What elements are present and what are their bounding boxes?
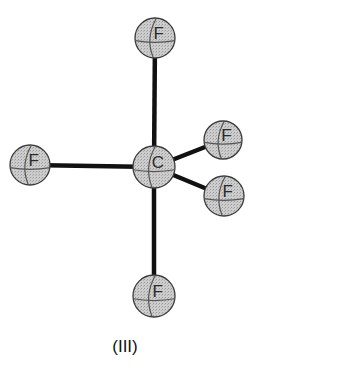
atom-F-left: F: [10, 145, 50, 185]
atom-label: F: [153, 282, 163, 301]
atom-F-lower-right: F: [204, 176, 244, 216]
atom-label: F: [221, 126, 231, 145]
atom-label: F: [28, 151, 38, 170]
figure-caption: (III): [112, 337, 138, 356]
atom-F-top: F: [135, 18, 175, 58]
molecule-diagram: FFCFFF (III): [0, 0, 345, 368]
bonds-group: [30, 38, 224, 296]
atom-label: F: [222, 182, 232, 201]
atom-C-center: C: [133, 146, 175, 188]
atom-F-upper-right: F: [204, 121, 242, 159]
atom-F-bottom: F: [133, 275, 175, 317]
atom-label: F: [153, 24, 163, 43]
atom-label: C: [152, 153, 164, 172]
